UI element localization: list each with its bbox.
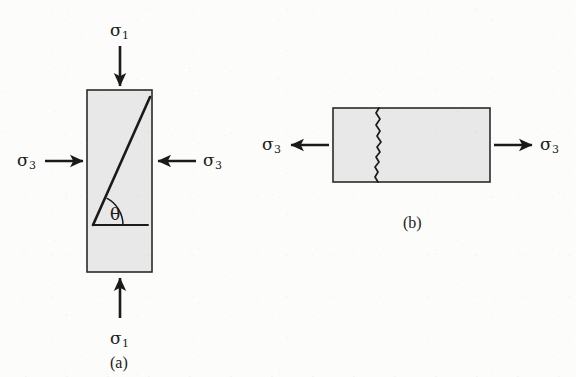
sigma3-right-label: σ3 (203, 152, 222, 171)
stress-failure-diagram (0, 0, 576, 377)
panel-a-caption: (a) (110, 355, 128, 371)
sigma3-left-label: σ3 (17, 152, 36, 171)
sigma1-bottom-label: σ1 (110, 330, 129, 349)
panel-b-specimen (333, 108, 490, 182)
sigma3-left-tension-label: σ3 (262, 136, 281, 155)
figure-root: σ1 σ1 σ3 σ3 θ (a) σ3 σ3 (b) (0, 0, 576, 377)
theta-angle-label: θ (110, 206, 120, 223)
panel-b-group (291, 108, 532, 182)
panel-a-group (45, 46, 196, 318)
sigma1-top-label: σ1 (110, 22, 129, 41)
panel-b-caption: (b) (403, 215, 422, 231)
sigma3-right-tension-label: σ3 (540, 136, 559, 155)
